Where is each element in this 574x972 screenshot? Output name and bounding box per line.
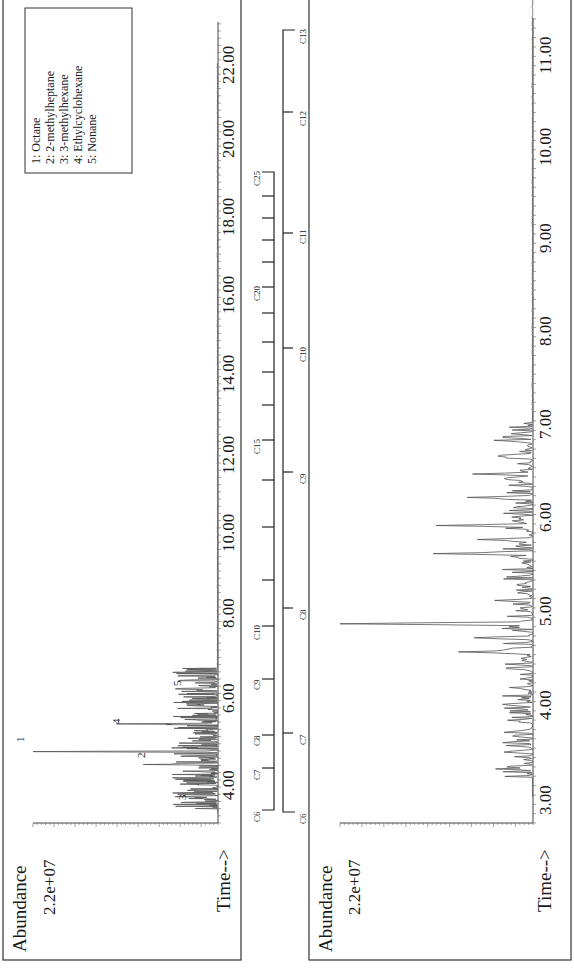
top-abundance-ticks <box>33 823 218 827</box>
btick-8: 8.00 <box>536 316 555 346</box>
top-chromatogram-trace <box>33 63 218 813</box>
peak-label-5: 5 <box>171 680 183 686</box>
legend-entry-3: 3: 3-methylhexane <box>57 74 71 164</box>
bottom-chromatogram-panel: Abundance 2.2e+07 Time--> 3.00 4.00 5.00… <box>309 0 571 960</box>
btick-11: 11.00 <box>536 36 555 74</box>
btick-10: 10.00 <box>536 128 555 166</box>
ladder-c6: C6 <box>252 811 262 822</box>
ladder-b-c13: C13 <box>298 28 308 44</box>
ladder-c25: C25 <box>252 170 262 186</box>
top-chromatogram-panel: Abundance 2.2e+07 Time--> 4.00 6.00 8.00… <box>3 0 241 960</box>
ladder-c20: C20 <box>252 285 262 301</box>
top-ymax-label: 2.2e+07 <box>40 859 59 915</box>
carbon-number-ladder-bottom: C6 C7 C8 C9 C10 C11 C12 C13 <box>283 28 308 824</box>
ladder-b-c9: C9 <box>298 473 308 484</box>
bottom-ymax-label: 2.2e+07 <box>345 859 364 915</box>
top-peak-labels: 1 2 3 4 5 <box>14 680 188 800</box>
ladder-b-c12: C12 <box>298 111 308 126</box>
tick-12: 12.00 <box>219 436 238 474</box>
bottom-time-label: Time--> <box>534 849 555 912</box>
ladder-c9: C9 <box>252 679 262 690</box>
tick-14: 14.00 <box>219 355 238 393</box>
ladder-c7: C7 <box>252 769 262 780</box>
legend-entry-2: 2: 2-methylheptane <box>43 71 57 164</box>
btick-6: 6.00 <box>536 502 555 532</box>
btick-7: 7.00 <box>536 409 555 439</box>
tick-22: 22.00 <box>219 46 238 84</box>
btick-5: 5.00 <box>536 596 555 626</box>
ladder-b-c7: C7 <box>298 734 308 745</box>
top-time-tick-labels: 4.00 6.00 8.00 10.00 12.00 14.00 16.00 1… <box>219 46 238 800</box>
legend-entry-1: 1: Octane <box>29 118 43 164</box>
tick-16: 16.00 <box>219 276 238 314</box>
bottom-time-tick-labels: 3.00 4.00 5.00 6.00 7.00 8.00 9.00 10.00… <box>536 36 555 815</box>
legend-entry-5: 5: Nonane <box>85 114 99 164</box>
tick-4: 4.00 <box>219 770 238 800</box>
btick-3: 3.00 <box>536 785 555 815</box>
tick-20: 20.00 <box>219 120 238 158</box>
ladder-c8: C8 <box>252 735 262 746</box>
peak-label-2: 2 <box>135 753 147 759</box>
btick-4: 4.00 <box>536 690 555 720</box>
bottom-abundance-ticks <box>340 823 533 827</box>
chromatogram-figure: Abundance 2.2e+07 Time--> 4.00 6.00 8.00… <box>0 0 574 972</box>
ladder-b-c10: C10 <box>298 346 308 362</box>
bottom-chromatogram-trace <box>340 0 533 797</box>
legend: 1: Octane 2: 2-methylheptane 3: 3-methyl… <box>25 8 132 173</box>
ladder-c10: C10 <box>252 624 262 640</box>
tick-6: 6.00 <box>219 683 238 713</box>
tick-18: 18.00 <box>219 198 238 236</box>
ladder-b-c11: C11 <box>298 229 308 244</box>
peak-label-4: 4 <box>110 718 122 724</box>
legend-entry-4: 4: Ethylcyclohexane <box>71 66 85 164</box>
ladder-b-c8: C8 <box>298 609 308 620</box>
btick-9: 9.00 <box>536 223 555 253</box>
ladder-c15: C15 <box>252 438 262 454</box>
peak-label-1: 1 <box>14 737 26 743</box>
bottom-abundance-label: Abundance <box>315 865 336 952</box>
carbon-number-ladder-top: C6 C7 C8 C9 C10 C15 C20 C25 <box>252 170 274 822</box>
top-time-label: Time--> <box>213 849 234 912</box>
tick-10: 10.00 <box>219 514 238 552</box>
peak-label-3: 3 <box>176 794 188 800</box>
tick-8: 8.00 <box>219 598 238 628</box>
ladder-b-c6: C6 <box>298 813 308 824</box>
top-abundance-label: Abundance <box>9 865 30 952</box>
